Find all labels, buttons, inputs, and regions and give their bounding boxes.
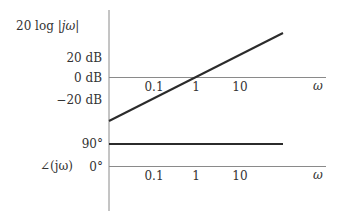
magnitude-y-label: 20 log |jω| <box>16 19 79 33</box>
tick-0deg: 0° <box>89 160 103 174</box>
mag-x-tick-0.1: 0.1 <box>144 80 163 94</box>
phase-x-tick-0.1: 0.1 <box>144 169 163 183</box>
tick-0db: 0 dB <box>74 71 102 85</box>
tick-minus20db: −20 dB <box>56 93 102 107</box>
tick-20db: 20 dB <box>66 51 102 65</box>
phase-x-tick-10: 10 <box>232 169 247 183</box>
mag-x-tick-10: 10 <box>232 80 247 94</box>
bode-plot: 20 log |jω| 20 dB 0 dB −20 dB 0.1 1 10 ω… <box>0 0 342 219</box>
mag-x-label-omega: ω <box>313 79 323 93</box>
phase-y-label: ∠(jω) <box>40 159 73 173</box>
tick-90deg: 90° <box>82 137 103 151</box>
phase-x-label-omega: ω <box>313 168 323 182</box>
phase-x-tick-1: 1 <box>192 169 200 183</box>
mag-x-tick-1: 1 <box>192 80 200 94</box>
